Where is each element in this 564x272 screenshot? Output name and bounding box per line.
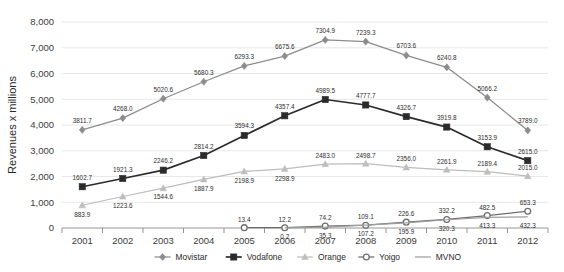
data-label: 4777.7 — [356, 92, 376, 99]
y-axis-tick-label: 0 — [49, 222, 54, 233]
data-label: 2814.2 — [194, 143, 214, 150]
data-label: 2246.2 — [153, 157, 173, 164]
data-point-marker — [79, 184, 85, 190]
data-point-marker — [403, 219, 409, 225]
data-point-marker — [444, 64, 450, 71]
x-axis-tick-label: 2004 — [193, 235, 214, 246]
data-label: 0.2 — [280, 233, 289, 240]
x-axis-group — [62, 228, 548, 233]
data-label: 3153.9 — [477, 134, 497, 141]
data-label: 3919.8 — [437, 114, 457, 121]
x-axis-tick-label: 2003 — [153, 235, 174, 246]
data-point-marker — [241, 132, 247, 138]
data-label: 6703.6 — [396, 42, 416, 49]
data-label: 332.2 — [439, 207, 455, 214]
data-label: 2615.0 — [518, 148, 538, 155]
x-axis-tick-label: 2001 — [72, 235, 93, 246]
legend-label-yoigo[interactable]: Yoigo — [379, 252, 400, 262]
x-axis-tick-labels: 2001200220032004200520062007200820092010… — [72, 235, 539, 246]
data-label: 2356.0 — [396, 155, 416, 162]
data-point-marker — [160, 167, 166, 173]
data-label: 6675.6 — [275, 43, 295, 50]
data-label: 653.3 — [520, 199, 536, 206]
y-axis-tick-label: 3,000 — [30, 145, 54, 156]
data-label: 6293.3 — [234, 53, 254, 60]
legend-label-movistar[interactable]: Movistar — [176, 252, 208, 262]
data-point-marker — [160, 95, 166, 102]
x-axis-tick-label: 2005 — [234, 235, 255, 246]
data-label: 1223.6 — [113, 202, 133, 209]
data-label: 107.2 — [358, 230, 374, 237]
data-label: 2298.9 — [275, 175, 295, 182]
data-label: 883.9 — [74, 211, 90, 218]
data-point-marker — [403, 52, 409, 59]
x-axis-tick-label: 2009 — [396, 235, 417, 246]
data-label: 7239.3 — [356, 29, 376, 36]
data-point-marker — [231, 254, 237, 260]
chart-canvas: 01,0002,0003,0004,0005,0006,0007,0008,00… — [0, 0, 564, 272]
legend-label-orange[interactable]: Orange — [318, 252, 346, 262]
data-label: 1602.7 — [72, 174, 92, 181]
data-point-marker — [160, 253, 166, 260]
data-label: 1887.9 — [194, 185, 214, 192]
x-axis-tick-label: 2010 — [436, 235, 457, 246]
data-point-marker — [79, 126, 85, 133]
data-point-marker — [363, 38, 369, 45]
y-axis-tick-labels: 01,0002,0003,0004,0005,0006,0007,0008,00… — [30, 16, 54, 233]
series-line-movistar — [82, 40, 528, 131]
data-label: 74.2 — [319, 214, 332, 221]
data-label: 432.3 — [520, 222, 536, 229]
data-label: 1544.6 — [153, 193, 173, 200]
legend-label-vodafone[interactable]: Vodafone — [247, 252, 283, 262]
data-label: 4268.0 — [113, 105, 133, 112]
series-line-vodafone — [82, 100, 528, 187]
y-axis-tick-label: 7,000 — [30, 42, 54, 53]
legend-label-mvno[interactable]: MVNO — [436, 252, 462, 262]
y-axis-title: Revenues x millions — [6, 76, 18, 174]
data-label: 2198.9 — [234, 177, 254, 184]
series-line-orange — [82, 164, 528, 206]
y-axis-tick-label: 8,000 — [30, 16, 54, 27]
y-axis-tick-label: 1,000 — [30, 197, 54, 208]
data-label: 3789.0 — [518, 117, 538, 124]
data-label: 2498.7 — [356, 152, 376, 159]
data-label: 4357.4 — [275, 103, 295, 110]
y-axis-tick-label: 5,000 — [30, 94, 54, 105]
data-point-marker — [525, 127, 531, 134]
data-label: 5066.2 — [477, 85, 497, 92]
data-point-marker — [403, 113, 409, 119]
data-point-marker — [525, 208, 531, 214]
data-label: 109.1 — [358, 213, 374, 220]
chart-legend: MovistarVodafoneOrangeYoigoMVNO — [155, 252, 462, 262]
data-label: 413.3 — [479, 222, 495, 229]
data-point-marker — [525, 158, 531, 164]
y-axis-tick-label: 6,000 — [30, 68, 54, 79]
data-series-group — [79, 36, 531, 230]
data-label: 35.3 — [319, 232, 332, 239]
data-label: 2189.4 — [477, 160, 497, 167]
x-axis-tick-label: 2011 — [477, 235, 497, 246]
data-point-marker — [444, 124, 450, 130]
x-axis-tick-label: 2002 — [112, 235, 133, 246]
data-point-marker — [322, 223, 328, 229]
data-label: 12.2 — [279, 216, 292, 223]
data-point-marker — [201, 78, 207, 85]
data-label: 5020.6 — [153, 86, 173, 93]
data-point-marker — [484, 94, 490, 101]
data-label: 4989.5 — [315, 87, 335, 94]
data-label: 1921.3 — [113, 166, 133, 173]
y-axis-tick-label: 2,000 — [30, 171, 54, 182]
data-point-marker — [322, 96, 328, 102]
data-label: 226.6 — [398, 210, 414, 217]
data-point-marker — [282, 53, 288, 60]
data-point-marker — [201, 152, 207, 158]
data-point-marker — [120, 175, 126, 181]
data-label: 2483.0 — [315, 152, 335, 159]
data-label: 4326.7 — [396, 104, 416, 111]
data-point-marker — [241, 62, 247, 69]
data-label: 3594.3 — [234, 122, 254, 129]
y-axis-tick-label: 4,000 — [30, 119, 54, 130]
revenue-line-chart: 01,0002,0003,0004,0005,0006,0007,0008,00… — [0, 0, 564, 272]
data-label: 13.4 — [238, 216, 251, 223]
data-label: 2261.9 — [437, 158, 457, 165]
